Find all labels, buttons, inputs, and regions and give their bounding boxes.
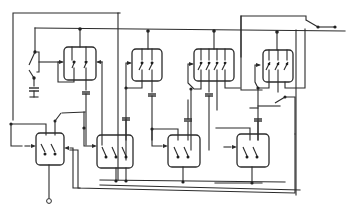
- relay-r1: [58, 27, 102, 145]
- input-switch-group: [29, 28, 60, 97]
- transfer-switch: [250, 96, 295, 135]
- relay-r7: [150, 100, 200, 184]
- relay-r4: [255, 30, 293, 140]
- relay-r8: [215, 119, 269, 185]
- relay-r6: [82, 112, 133, 183]
- mid-left-switch: [54, 112, 86, 135]
- relay-r2: [124, 29, 162, 160]
- relay-r5: [9, 122, 80, 203]
- relay-circuit-diagram: [0, 0, 348, 211]
- capacitor-r6: [122, 118, 130, 140]
- relay-r3: [188, 29, 240, 150]
- output-switch: [306, 20, 337, 29]
